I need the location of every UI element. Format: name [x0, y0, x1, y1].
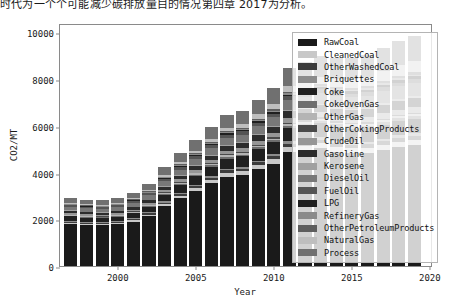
legend-item-OtherWashedCoal[interactable]: OtherWashedCoal — [298, 61, 433, 73]
bar-segment-RawCoal — [80, 225, 93, 266]
bar-segment-Process — [205, 127, 218, 139]
legend-swatch-icon — [298, 150, 317, 157]
legend-swatch-icon — [298, 163, 317, 170]
bar-segment-DieselOil — [220, 138, 233, 145]
bar-segment-RawCoal — [236, 175, 249, 266]
legend-label: OtherPetroleumProducts — [324, 223, 434, 233]
bar-segment-Process — [189, 140, 202, 150]
legend-label: Coke — [324, 87, 344, 97]
legend-item-OtherCokingProducts[interactable]: OtherCokingProducts — [298, 123, 433, 135]
legend-label: CrudeOil — [324, 136, 364, 146]
legend-item-FuelOil[interactable]: FuelOil — [298, 185, 433, 197]
legend-item-LPG[interactable]: LPG — [298, 197, 433, 209]
legend-swatch-icon — [298, 200, 317, 207]
legend-item-DieselOil[interactable]: DieselOil — [298, 172, 433, 184]
bar-1999 — [96, 200, 109, 266]
x-tick-label: 2020 — [419, 266, 441, 283]
legend-item-CrudeOil[interactable]: CrudeOil — [298, 135, 433, 147]
legend-item-RefineryGas[interactable]: RefineryGas — [298, 209, 433, 221]
legend-swatch-icon — [298, 39, 317, 46]
bar-segment-RawCoal — [96, 225, 109, 266]
legend-swatch-icon — [298, 51, 317, 58]
legend-item-CleanedCoal[interactable]: CleanedCoal — [298, 48, 433, 60]
bar-2008 — [236, 110, 249, 266]
legend-swatch-icon — [298, 88, 317, 95]
y-tick-label: 8000 — [32, 76, 60, 86]
bar-segment-Process — [267, 88, 280, 104]
y-tick-label: 6000 — [32, 123, 60, 133]
x-tick-label: 2000 — [107, 266, 129, 283]
bar-segment-Coke — [189, 176, 202, 184]
bar-segment-Coke — [236, 156, 249, 166]
legend-item-CokeOvenGas[interactable]: CokeOvenGas — [298, 98, 433, 110]
legend-label: OtherWashedCoal — [324, 62, 399, 72]
legend-swatch-icon — [298, 187, 317, 194]
legend-swatch-icon — [298, 225, 317, 232]
legend-swatch-icon — [298, 101, 317, 108]
y-tick-label: 4000 — [32, 170, 60, 180]
figure: CO2/MT Year 0200040006000800010000 20002… — [0, 14, 453, 292]
legend-swatch-icon — [298, 212, 317, 219]
legend-item-Briquettes[interactable]: Briquettes — [298, 73, 433, 85]
legend-item-OtherPetroleumProducts[interactable]: OtherPetroleumProducts — [298, 222, 433, 234]
bar-2006 — [205, 127, 218, 266]
bar-1997 — [64, 198, 77, 266]
bar-segment-Coke — [252, 149, 265, 160]
legend-label: NaturalGas — [324, 235, 374, 245]
y-tick-label: 2000 — [32, 216, 60, 226]
y-tick-label: 10000 — [27, 29, 60, 39]
legend-swatch-icon — [298, 175, 317, 182]
legend-item-Gasoline[interactable]: Gasoline — [298, 148, 433, 160]
legend-item-OtherGas[interactable]: OtherGas — [298, 110, 433, 122]
bar-segment-RawCoal — [111, 224, 124, 266]
legend-label: RefineryGas — [324, 211, 379, 221]
bar-2004 — [174, 153, 187, 266]
bar-segment-DieselOil — [267, 117, 280, 126]
legend-label: Process — [324, 248, 359, 258]
bar-segment-RawCoal — [64, 224, 77, 266]
legend[interactable]: RawCoalCleanedCoalOtherWashedCoalBriquet… — [292, 32, 438, 263]
legend-label: OtherGas — [324, 112, 364, 122]
bar-segment-RawCoal — [142, 216, 155, 266]
legend-swatch-icon — [298, 237, 317, 244]
bar-segment-RawCoal — [220, 177, 233, 266]
x-axis-label: Year — [234, 287, 256, 297]
bar-segment-Process — [252, 100, 265, 115]
bar-segment-DieselOil — [252, 126, 265, 134]
bar-segment-RawCoal — [127, 222, 140, 266]
bar-segment-RawCoal — [267, 164, 280, 266]
legend-swatch-icon — [298, 63, 317, 70]
legend-label: OtherCokingProducts — [324, 124, 419, 134]
legend-label: FuelOil — [324, 186, 359, 196]
bar-segment-Coke — [220, 159, 233, 169]
bar-segment-Coke — [174, 185, 187, 192]
bar-2000 — [111, 198, 124, 266]
legend-label: LPG — [324, 198, 339, 208]
legend-label: Kerosene — [324, 161, 364, 171]
y-axis-label: CO2/MT — [9, 129, 19, 162]
legend-swatch-icon — [298, 76, 317, 83]
legend-item-RawCoal[interactable]: RawCoal — [298, 36, 433, 48]
bar-segment-Process — [236, 111, 249, 125]
legend-label: DieselOil — [324, 173, 369, 183]
legend-item-Kerosene[interactable]: Kerosene — [298, 160, 433, 172]
bar-segment-Coke — [205, 167, 218, 176]
legend-label: CokeOvenGas — [324, 99, 379, 109]
bar-2009 — [252, 99, 265, 266]
bar-segment-DieselOil — [236, 135, 249, 142]
bar-2002 — [142, 184, 155, 266]
legend-label: CleanedCoal — [324, 50, 379, 60]
x-tick-label: 2015 — [341, 266, 363, 283]
bar-segment-RawCoal — [189, 191, 202, 266]
bar-segment-RawCoal — [252, 169, 265, 266]
legend-item-Coke[interactable]: Coke — [298, 86, 433, 98]
legend-item-Process[interactable]: Process — [298, 247, 433, 259]
legend-item-NaturalGas[interactable]: NaturalGas — [298, 234, 433, 246]
bar-2001 — [127, 193, 140, 266]
bar-segment-Process — [174, 153, 187, 162]
y-tick-label: 0 — [49, 263, 60, 273]
legend-label: Briquettes — [324, 74, 374, 84]
legend-swatch-icon — [298, 125, 317, 132]
bar-segment-RawCoal — [205, 183, 218, 266]
legend-swatch-icon — [298, 249, 317, 256]
